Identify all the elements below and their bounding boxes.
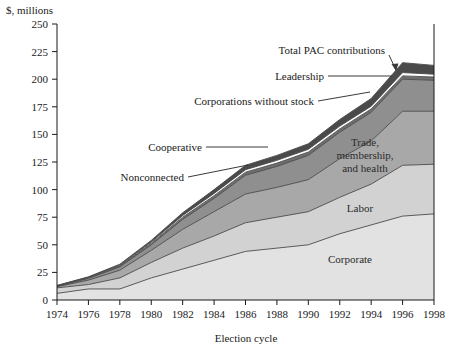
x-tick-label: 1974 bbox=[46, 308, 69, 320]
y-tick-label: 200 bbox=[32, 73, 49, 85]
annotation-nonconnected: Nonconnected bbox=[120, 171, 184, 183]
y-tick-label: 25 bbox=[37, 266, 49, 278]
y-tick-label: 250 bbox=[32, 18, 49, 30]
x-tick-label: 1980 bbox=[140, 308, 163, 320]
label-labor: Labor bbox=[347, 202, 374, 214]
x-tick-label: 1992 bbox=[329, 308, 351, 320]
label-corporate: Corporate bbox=[328, 253, 372, 265]
pac-contributions-area-chart: $, millions 0255075100125150175200225250… bbox=[0, 0, 460, 362]
y-tick-label: 0 bbox=[43, 294, 49, 306]
annotation-corporations-without-stock: Corporations without stock bbox=[194, 95, 314, 107]
annotation-leadership: Leadership bbox=[275, 70, 324, 82]
y-tick-label: 175 bbox=[32, 101, 49, 113]
x-tick-label: 1978 bbox=[109, 308, 132, 320]
annotation-cooperative: Cooperative bbox=[148, 141, 202, 153]
y-tick-label: 100 bbox=[32, 184, 49, 196]
x-tick-label: 1984 bbox=[203, 308, 226, 320]
x-tick-label: 1996 bbox=[392, 308, 415, 320]
y-tick-label: 225 bbox=[32, 46, 49, 58]
y-tick-label: 125 bbox=[32, 156, 49, 168]
x-tick-label: 1998 bbox=[423, 308, 446, 320]
x-tick-label: 1988 bbox=[266, 308, 289, 320]
label-trade-line2: membership, bbox=[336, 149, 393, 161]
label-trade-line1: Trade, bbox=[351, 136, 379, 148]
x-tick-label: 1982 bbox=[172, 308, 194, 320]
y-tick-label: 75 bbox=[37, 211, 49, 223]
y-tick-label: 50 bbox=[37, 239, 49, 251]
y-axis-title: $, millions bbox=[6, 4, 53, 16]
x-tick-label: 1976 bbox=[77, 308, 100, 320]
label-trade-line3: and health bbox=[342, 162, 388, 174]
x-tick-label: 1990 bbox=[297, 308, 320, 320]
annotation-total-pac-contributions: Total PAC contributions bbox=[279, 44, 385, 56]
x-tick-label: 1994 bbox=[360, 308, 383, 320]
x-tick-label: 1986 bbox=[235, 308, 258, 320]
x-axis-title: Election cycle bbox=[215, 332, 278, 344]
y-tick-label: 150 bbox=[32, 128, 49, 140]
